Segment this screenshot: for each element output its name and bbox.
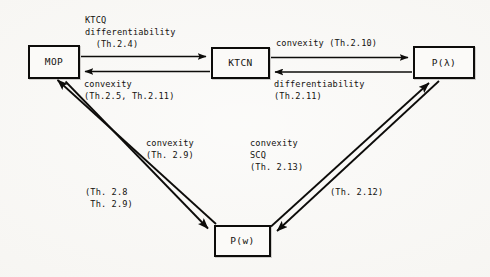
edge-label-plambda-to-ktcn: differentiability (Th.2.11) [274, 78, 365, 102]
node-p-w-label: P(w) [230, 236, 254, 246]
edge-label-ktcn-to-mop: convexity (Th.2.5, Th.2.11) [84, 78, 175, 102]
node-p-w[interactable]: P(w) [214, 225, 271, 257]
diagram-canvas: MOP KTCN P(λ) P(w) KTCQ differentiabilit… [0, 0, 490, 277]
edge-label-mop-to-pw: convexity (Th. 2.9) [146, 137, 194, 161]
edge-label-mop-to-ktcn: KTCQ differentiability (Th.2.4) [85, 14, 176, 51]
node-p-lambda-label: P(λ) [432, 58, 456, 68]
node-ktcn[interactable]: KTCN [211, 47, 270, 79]
edge-label-ktcn-to-plambda: convexity (Th.2.10) [276, 37, 377, 49]
node-ktcn-label: KTCN [228, 58, 252, 68]
node-p-lambda[interactable]: P(λ) [413, 46, 475, 79]
edge-label-plambda-to-pw: (Th. 2.12) [330, 186, 383, 198]
node-mop-label: MOP [45, 57, 63, 67]
node-mop[interactable]: MOP [28, 45, 80, 79]
edge-label-pw-to-plambda: convexity SCQ (Th. 2.13) [250, 137, 303, 174]
edge-label-pw-to-mop: (Th. 2.8 Th. 2.9) [85, 186, 133, 210]
